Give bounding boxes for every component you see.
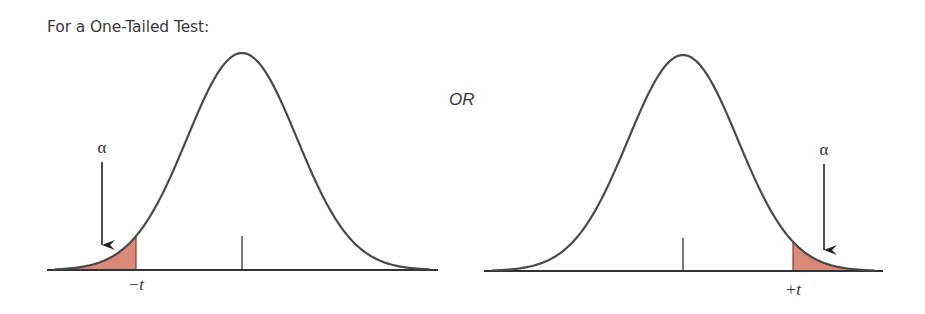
left-tail-panel: α −t — [47, 53, 438, 294]
left-alpha-label: α — [98, 138, 107, 157]
left-critical-value-label: −t — [128, 275, 145, 294]
distribution-diagrams: α −t α +t — [0, 0, 925, 314]
right-tail-panel: α +t — [484, 55, 883, 299]
right-tail-shaded-region — [793, 242, 858, 271]
right-critical-value-label: +t — [785, 280, 802, 299]
right-alpha-label: α — [820, 140, 829, 159]
